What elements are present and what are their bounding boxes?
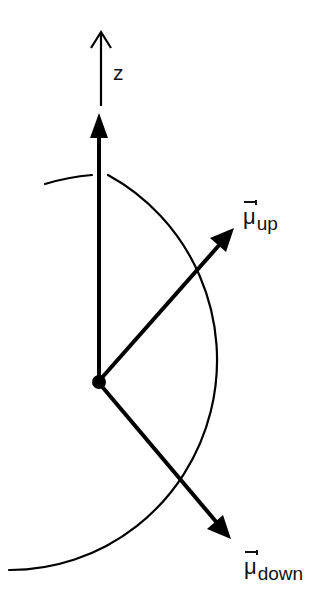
mu-up-label: μ up <box>243 206 278 233</box>
mu-down-vector-shaft <box>99 383 218 524</box>
mu-up-symbol: μ <box>243 206 256 228</box>
spin-vector-diagram <box>0 0 327 612</box>
origin-dot <box>92 375 106 389</box>
precession-arc <box>9 175 217 570</box>
mu-down-symbol: μ <box>244 556 257 578</box>
mu-down-label: μ down <box>244 556 303 583</box>
mu-up-vector-shaft <box>99 243 221 381</box>
mu-down-subscript: down <box>258 563 303 584</box>
mu-down-arrowhead-icon <box>207 515 231 539</box>
precession-arc-left <box>45 175 92 184</box>
z-axis-label: z <box>113 62 124 83</box>
vector-arrow-icon <box>245 551 257 553</box>
vector-arrow-icon <box>244 201 256 203</box>
mu-up-subscript: up <box>257 213 278 234</box>
vertical-vector-arrowhead-icon <box>90 113 108 138</box>
